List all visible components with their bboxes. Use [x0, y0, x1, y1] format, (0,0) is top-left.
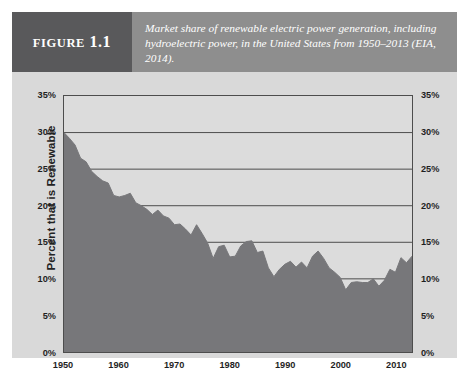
- x-tick-label: 1960: [99, 360, 139, 370]
- figure-caption-bar: Figure 1.1 Market share of renewable ele…: [12, 12, 457, 72]
- x-tick-label: 1950: [43, 360, 83, 370]
- figure-label-block: Figure 1.1: [12, 12, 132, 72]
- y-tick-label-left: 35%: [26, 90, 56, 100]
- plot-area: [63, 95, 413, 353]
- figure-label-word: Figure: [33, 36, 85, 50]
- x-tick-label: 2000: [321, 360, 361, 370]
- y-tick-label-right: 20%: [421, 201, 451, 211]
- y-tick-label-left: 20%: [26, 201, 56, 211]
- y-tick-label-left: 5%: [26, 311, 56, 321]
- figure-label: Figure 1.1: [33, 33, 111, 51]
- y-tick-label-right: 25%: [421, 164, 451, 174]
- x-tick-label: 2010: [376, 360, 416, 370]
- y-tick-label-left: 15%: [26, 237, 56, 247]
- chart-panel: Percent that is Renewable 35%30%25%20%15…: [12, 72, 457, 358]
- figure-label-number: 1.1: [89, 33, 111, 50]
- y-tick-label-left: 10%: [26, 274, 56, 284]
- y-tick-label-right: 10%: [421, 274, 451, 284]
- figure-caption-text: Market share of renewable electric power…: [132, 12, 457, 72]
- x-tick-label: 1970: [154, 360, 194, 370]
- figure-container: Figure 1.1 Market share of renewable ele…: [12, 12, 457, 358]
- y-tick-label-right: 5%: [421, 311, 451, 321]
- y-tick-label-left: 30%: [26, 127, 56, 137]
- y-tick-label-right: 0%: [421, 348, 451, 358]
- x-tick-label: 1990: [265, 360, 305, 370]
- y-tick-label-right: 30%: [421, 127, 451, 137]
- y-tick-label-left: 0%: [26, 348, 56, 358]
- y-tick-label-left: 25%: [26, 164, 56, 174]
- x-tick-label: 1980: [210, 360, 250, 370]
- y-tick-label-right: 35%: [421, 90, 451, 100]
- y-tick-label-right: 15%: [421, 237, 451, 247]
- area-chart-svg: [64, 96, 412, 352]
